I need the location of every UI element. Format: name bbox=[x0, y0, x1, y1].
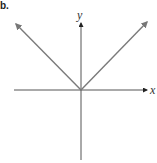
part-label: b. bbox=[0, 0, 9, 11]
x-axis-label: x bbox=[149, 83, 156, 97]
y-axis-label: y bbox=[76, 8, 83, 22]
graph-canvas: b. y x bbox=[0, 0, 157, 163]
